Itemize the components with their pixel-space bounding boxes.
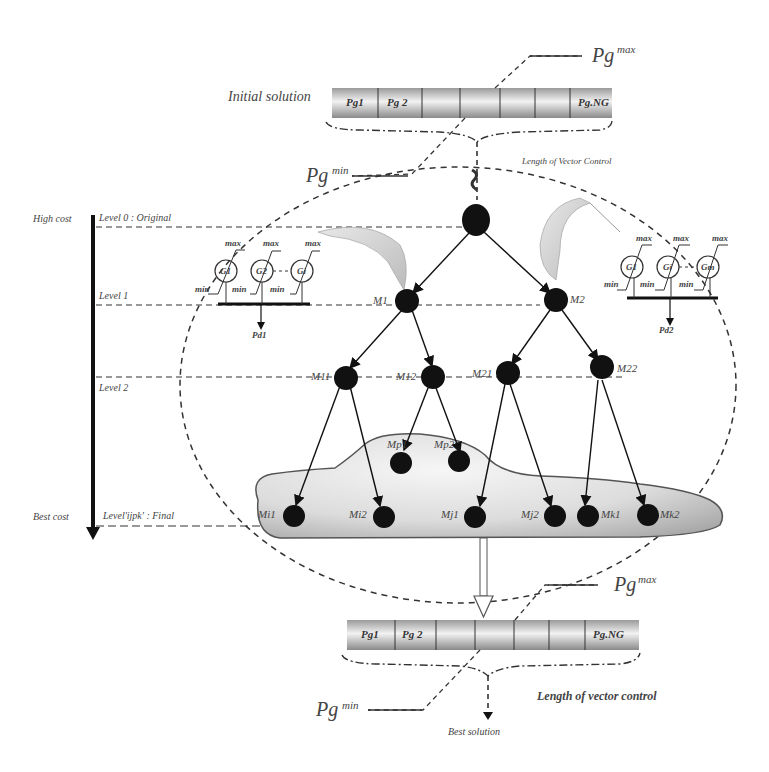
top-pg-min-sup: min xyxy=(332,164,349,176)
max-label: max xyxy=(636,233,653,243)
initial-solution-label: Initial solution xyxy=(227,89,311,104)
result-arrow xyxy=(474,538,493,617)
min-label: min xyxy=(195,284,210,294)
bottom-cell-2: Pg 2 xyxy=(402,628,423,640)
top-pg-max-sup: max xyxy=(617,43,635,55)
bottom-pg-min-sup: min xyxy=(342,699,359,711)
min-label: min xyxy=(679,279,694,289)
label-m12: M12 xyxy=(395,370,417,382)
node-m11 xyxy=(334,366,358,390)
top-pg-max: Pg xyxy=(591,44,614,67)
level-2-label: Level 2 xyxy=(98,382,128,393)
node-mk1 xyxy=(577,505,599,527)
node-mj1 xyxy=(464,506,486,528)
root-node xyxy=(462,204,490,236)
min-label: min xyxy=(270,284,285,294)
swoosh-right xyxy=(540,198,590,280)
top-cell-ng: Pg.NG xyxy=(578,96,609,108)
min-label: min xyxy=(640,279,655,289)
label-mj1: Mj1 xyxy=(440,508,459,520)
label-m22: M22 xyxy=(616,362,638,374)
level-0-label: Level 0 : Original xyxy=(98,212,171,223)
top-pg-min: Pg xyxy=(305,164,328,187)
label-m2: M2 xyxy=(569,293,585,305)
node-mj2 xyxy=(544,505,566,527)
cost-axis: High cost Best cost xyxy=(32,213,100,540)
top-vector: Initial solution Pg1 Pg 2 Pg.NG Pg max P… xyxy=(227,43,635,200)
bottom-cell-ng: Pg.NG xyxy=(593,628,624,640)
label-mi2: Mi2 xyxy=(348,508,367,520)
label-mp1: Mp1 xyxy=(386,438,407,450)
bottom-pg-max-sup: max xyxy=(638,573,656,585)
label-mk1: Mk1 xyxy=(600,508,621,520)
high-cost-label: High cost xyxy=(32,213,72,224)
label-mk2: Mk2 xyxy=(659,508,680,520)
load-pd1: Pd1 xyxy=(252,330,267,340)
node-mp2 xyxy=(448,450,470,472)
bottom-pg-min: Pg xyxy=(315,698,338,721)
max-label: max xyxy=(263,238,280,248)
label-mj2: Mj2 xyxy=(520,508,539,520)
node-m1 xyxy=(395,289,419,313)
min-label: min xyxy=(604,279,619,289)
gen-gm-b: Gm xyxy=(701,262,715,272)
level-1-label: Level 1 xyxy=(98,290,128,301)
best-cost-label: Best cost xyxy=(33,511,69,522)
level-final-label: Level'ijpk' : Final xyxy=(102,510,174,521)
node-mi1 xyxy=(283,505,305,527)
label-mi1: Mi1 xyxy=(257,508,276,520)
max-label: max xyxy=(673,233,690,243)
max-label: max xyxy=(305,238,322,248)
node-mi2 xyxy=(373,506,395,528)
gen-gi-b: Gi xyxy=(663,262,672,272)
node-m2 xyxy=(544,288,568,312)
node-m21 xyxy=(496,361,520,385)
diagram-canvas: Initial solution Pg1 Pg 2 Pg.NG Pg max P… xyxy=(0,0,769,772)
best-solution-label: Best solution xyxy=(448,726,500,737)
top-cell-2: Pg 2 xyxy=(387,96,408,108)
generator-group-2: Pd2 G1 Gi Gm max max max min min min xyxy=(604,233,729,335)
max-label: max xyxy=(712,233,729,243)
load-pd2: Pd2 xyxy=(659,325,674,335)
top-length-caption: Length of Vector Control xyxy=(521,156,612,166)
label-m1: M1 xyxy=(372,294,388,306)
label-m21: M21 xyxy=(471,367,492,379)
node-mp1 xyxy=(390,452,412,474)
min-label: min xyxy=(232,284,247,294)
bottom-cell-1: Pg1 xyxy=(361,628,379,640)
label-mp2: Mp2 xyxy=(433,438,455,450)
node-m12 xyxy=(421,365,445,389)
generator-group-1: Pd1 G1 G2 Gi max max max min min min xyxy=(195,238,322,340)
max-label: max xyxy=(225,238,242,248)
bottom-length-caption: Length of vector control xyxy=(536,689,657,703)
top-cell-1: Pg1 xyxy=(346,96,364,108)
bottom-pg-max: Pg xyxy=(613,573,636,596)
node-mk2 xyxy=(637,504,659,526)
label-m11: M11 xyxy=(310,370,330,382)
node-m22 xyxy=(590,355,614,379)
swoosh-left xyxy=(318,227,406,290)
